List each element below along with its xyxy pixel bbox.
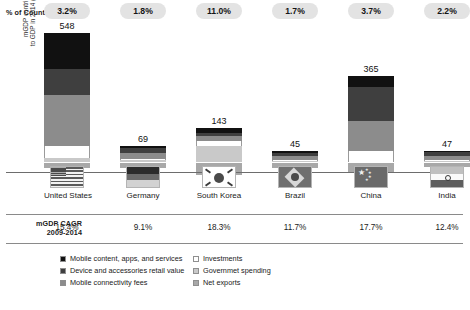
bar-segment-government	[120, 160, 166, 162]
bar-value-label: 365	[348, 64, 394, 74]
legend-item[interactable]: Mobile connectivity fees	[60, 277, 184, 288]
bar-value-label: 143	[196, 116, 242, 126]
bar-value-label: 45	[272, 139, 318, 149]
legend-label: Investments	[203, 254, 242, 263]
cagr-value: 11.7%	[272, 223, 318, 232]
germany-flag	[126, 166, 160, 188]
legend-item[interactable]: Governmet spending	[193, 265, 271, 276]
country-name: United States	[44, 191, 90, 200]
country-name: China	[348, 191, 394, 200]
bar-column[interactable]: 69	[120, 12, 166, 162]
legend-swatch-connectivity	[60, 280, 66, 286]
bar-column[interactable]: 45	[272, 12, 318, 162]
legend-label: Mobile connectivity fees	[70, 278, 147, 287]
bar-column[interactable]: 548	[44, 12, 90, 162]
country-name: Germany	[120, 191, 166, 200]
legend-swatch-investments	[193, 256, 199, 262]
bar-column[interactable]: 365	[348, 12, 394, 162]
china-flag: ★★★★★	[354, 166, 388, 188]
bar-segment-device	[44, 69, 90, 95]
cagr-value: 17.7%	[348, 223, 394, 232]
bar-segment-mobile-content	[44, 33, 90, 68]
country-name: Brazil	[272, 191, 318, 200]
legend-item[interactable]: Mobile content, apps, and services	[60, 253, 184, 264]
country-cell: South Korea	[196, 166, 242, 200]
legend-swatch-net-exports	[193, 280, 199, 286]
bar-column[interactable]: 143	[196, 12, 242, 162]
cagr-divider-bottom	[6, 243, 463, 244]
legend-column-left: Mobile content, apps, and servicesDevice…	[60, 253, 184, 289]
bar-value-label: 69	[120, 134, 166, 144]
bar-value-label: 548	[44, 21, 90, 31]
legend-swatch-device	[60, 268, 66, 274]
bar-segment-government	[272, 161, 318, 162]
legend-swatch-mobile-content	[60, 256, 66, 262]
legend-label: Device and accessories retail value	[70, 266, 184, 275]
bar-segment-investments	[348, 151, 394, 162]
legend-item[interactable]: Device and accessories retail value	[60, 265, 184, 276]
plot-area: 548691434536547	[0, 22, 469, 162]
bar-segment-government	[44, 158, 90, 162]
bar-stack-positive	[272, 151, 318, 162]
country-cell: ★★★★★China	[348, 166, 394, 200]
country-cell: Brazil	[272, 166, 318, 200]
india-flag	[430, 166, 464, 188]
cagr-value: 15.4%	[44, 223, 90, 232]
cagr-value: 9.1%	[120, 223, 166, 232]
bar-segment-connectivity	[348, 121, 394, 151]
bar-segment-government	[196, 146, 242, 162]
flags-row: United StatesGermanySouth KoreaBrazil★★★…	[0, 166, 469, 210]
cagr-value: 18.3%	[196, 223, 242, 232]
legend-column-right: InvestmentsGovernmet spendingNet exports	[193, 253, 271, 289]
country-name: India	[424, 191, 470, 200]
legend-swatch-government	[193, 268, 199, 274]
bar-stack-positive	[196, 128, 242, 162]
cagr-divider-top	[6, 214, 463, 215]
bar-segment-investments	[44, 146, 90, 157]
south-korea-flag	[202, 166, 236, 188]
legend: Mobile content, apps, and servicesDevice…	[60, 253, 310, 289]
legend-item[interactable]: Investments	[193, 253, 271, 264]
legend-label: Net exports	[203, 278, 240, 287]
country-name: South Korea	[196, 191, 242, 200]
united-states-flag	[50, 166, 84, 188]
bar-stack-positive	[120, 146, 166, 162]
country-cell: India	[424, 166, 470, 200]
bar-stack-positive	[348, 76, 394, 162]
country-cell: United States	[44, 166, 90, 200]
bar-segment-government	[424, 161, 470, 162]
bar-segment-device	[348, 87, 394, 121]
legend-label: Governmet spending	[203, 266, 271, 275]
country-cell: Germany	[120, 166, 166, 200]
legend-item[interactable]: Net exports	[193, 277, 271, 288]
bar-stack-positive	[44, 33, 90, 162]
bar-column[interactable]: 47	[424, 12, 470, 162]
bar-value-label: 47	[424, 139, 470, 149]
bar-segment-mobile-content	[348, 76, 394, 87]
cagr-value: 12.4%	[424, 223, 470, 232]
brazil-flag	[278, 166, 312, 188]
bar-stack-positive	[424, 151, 470, 162]
bar-segment-connectivity	[44, 95, 90, 147]
legend-label: Mobile content, apps, and services	[70, 254, 182, 263]
